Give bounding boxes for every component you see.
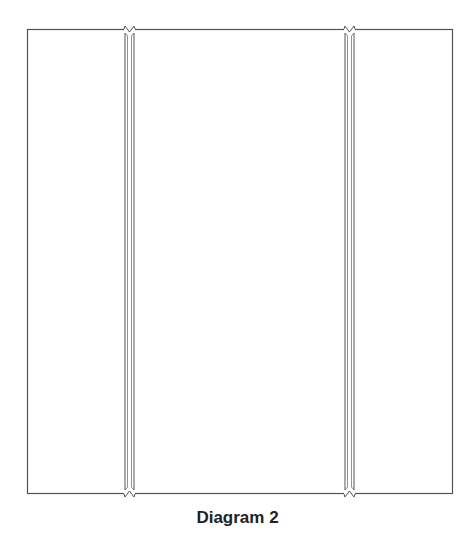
diagram-canvas (0, 0, 475, 536)
right-strip (344, 26, 355, 497)
left-strip (124, 26, 135, 497)
outer-panel-outline (28, 30, 453, 494)
diagram-caption: Diagram 2 (0, 508, 475, 528)
